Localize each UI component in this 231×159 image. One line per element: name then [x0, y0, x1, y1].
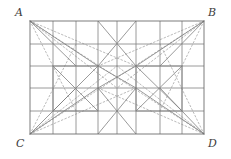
dotted-line-A-to-lower-right	[30, 21, 117, 88]
solid-diag-right-chevron-lower	[117, 77, 136, 88]
vertex-label-A: A	[15, 7, 23, 18]
geometry-figure: A B C D	[0, 0, 231, 159]
dotted-line-B-to-lower-left	[117, 21, 204, 88]
dotted-line-B-to-mid-left	[98, 21, 204, 66]
dotted-line-C-to-upper-mid	[30, 66, 117, 134]
vertex-label-B: B	[208, 7, 216, 18]
figure-canvas	[0, 0, 231, 159]
inner-square-group	[53, 66, 182, 111]
vertex-label-C: C	[16, 138, 24, 149]
vertex-label-D: D	[208, 138, 217, 149]
solid-diag-B-to-center	[136, 21, 204, 66]
solid-diag-left-chevron-lower	[98, 77, 117, 88]
solid-diag-A-to-center	[30, 21, 98, 66]
dotted-line-D-to-upper-mid	[117, 66, 204, 134]
dotted-line-A-to-mid-right	[30, 21, 136, 66]
